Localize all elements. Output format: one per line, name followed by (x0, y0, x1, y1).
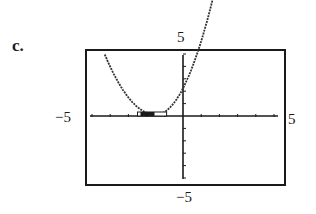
graph-window (0, 0, 316, 214)
parabola-curve (105, 0, 214, 115)
cursor-fill (141, 112, 155, 116)
window-frame (86, 50, 285, 185)
